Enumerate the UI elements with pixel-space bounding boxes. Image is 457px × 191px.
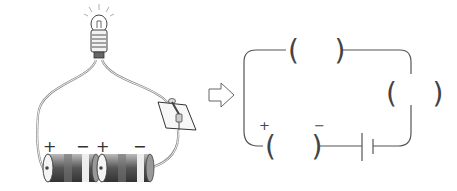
battery-2-plus: + xyxy=(96,137,109,156)
battery-2-minus: − xyxy=(133,137,146,156)
light-bulb-icon xyxy=(84,4,114,58)
wire xyxy=(342,50,411,74)
switch-icon xyxy=(158,99,196,131)
right-arrow-icon xyxy=(209,83,234,107)
physical-circuit: + − + − xyxy=(37,4,196,182)
wire xyxy=(244,50,286,95)
battery-2: + − xyxy=(96,137,154,182)
battery-1-minus: − xyxy=(76,137,89,156)
blank-top: ( ) xyxy=(288,34,345,67)
battery-1: + − xyxy=(43,137,100,182)
schematic-minus-label: − xyxy=(314,118,325,133)
schematic-plus-label: + xyxy=(259,118,270,133)
battery-1-plus: + xyxy=(43,137,56,156)
blank-right: ( ) xyxy=(386,77,443,110)
circuit-diagram: + − + − ( ) ( ) ( xyxy=(0,0,457,191)
wire xyxy=(373,105,411,146)
schematic-blanks: ( ) ( ) ( ) + − xyxy=(259,34,443,163)
blank-bottom-left: ( ) xyxy=(265,130,322,163)
